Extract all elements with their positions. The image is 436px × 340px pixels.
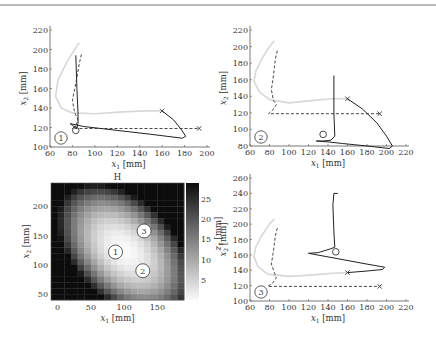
y-tick-label: 220 — [233, 205, 248, 214]
heatmap-cell — [104, 288, 111, 294]
heatmap-cell — [131, 183, 138, 189]
heatmap-cell — [118, 212, 125, 218]
heatmap-cell — [137, 206, 144, 212]
heatmap-cell — [144, 195, 151, 201]
x-tick-label: 200 — [379, 303, 394, 312]
heatmap-cell — [64, 206, 71, 212]
heatmap-cell — [171, 271, 178, 277]
heatmap-cell — [151, 189, 158, 195]
x-tick-label: 50 — [86, 303, 96, 312]
heatmap-cell — [137, 282, 144, 288]
x-marker-icon — [197, 126, 201, 130]
heatmap-cell — [118, 282, 125, 288]
heatmap-cell — [151, 242, 158, 248]
dashed-trajectory — [269, 51, 380, 114]
heatmap-cell — [91, 253, 98, 259]
heatmap-cell — [151, 183, 158, 189]
heatmap-cell — [137, 212, 144, 218]
heatmap-cell — [177, 265, 184, 271]
heatmap-cell — [164, 294, 171, 300]
heatmap-cell — [118, 189, 125, 195]
heatmap-cell — [118, 183, 125, 189]
light-trajectory — [56, 43, 163, 114]
heatmap-cell — [177, 242, 184, 248]
axis-label: x1 [mm] — [311, 158, 345, 169]
heatmap-cell — [104, 271, 111, 277]
solid-trajectory — [309, 193, 385, 272]
heatmap-cell — [84, 247, 91, 253]
heatmap-cell — [137, 247, 144, 253]
heatmap-cell — [58, 236, 65, 242]
heatmap-cell — [131, 288, 138, 294]
y-tick-label: 120 — [233, 109, 248, 118]
heatmap-cell — [71, 253, 78, 259]
heatmap-cell — [171, 265, 178, 271]
heatmap-cell — [98, 242, 105, 248]
heatmap-cell — [98, 277, 105, 283]
heatmap-cell — [151, 201, 158, 207]
heatmap-cell — [84, 183, 91, 189]
heatmap-cell — [104, 206, 111, 212]
heatmap-cell — [71, 265, 78, 271]
heatmap-cell — [131, 195, 138, 201]
colorbar-tick-label: 25 — [201, 195, 211, 204]
x-tick-label: 100 — [87, 149, 102, 158]
heatmap-cell — [104, 218, 111, 224]
heatmap-cell — [164, 201, 171, 207]
heatmap-cell — [91, 271, 98, 277]
heatmap-cell — [118, 218, 125, 224]
heatmap-cell — [177, 183, 184, 189]
heatmap-cell — [104, 282, 111, 288]
heatmap-cell — [64, 271, 71, 277]
heatmap-cell — [91, 224, 98, 230]
dashed-trajectory — [72, 54, 199, 128]
position-label: 2 — [140, 267, 145, 276]
heatmap-cell — [124, 218, 131, 224]
heatmap-cell — [51, 189, 58, 195]
heatmap-cell — [58, 230, 65, 236]
heatmap-cell — [111, 230, 118, 236]
x-tick-label: 150 — [150, 303, 165, 312]
heatmap-cell — [98, 201, 105, 207]
heatmap-cell — [171, 183, 178, 189]
heatmap-cell — [71, 288, 78, 294]
heatmap-cell — [164, 183, 171, 189]
heatmap-cell — [177, 206, 184, 212]
heatmap-cell — [157, 253, 164, 259]
heatmap-cell — [171, 282, 178, 288]
heatmap-cell — [91, 189, 98, 195]
colorbar-tick-label: 20 — [201, 215, 211, 224]
plot-number-label: 2 — [258, 133, 263, 142]
heatmap-cell — [98, 224, 105, 230]
heatmap-cell — [71, 277, 78, 283]
heatmap-cell — [78, 236, 85, 242]
heatmap-cell — [118, 224, 125, 230]
figure: 6080100120140160180200100120140160180200… — [0, 0, 436, 340]
heatmap-cell — [164, 265, 171, 271]
heatmap-cell — [131, 259, 138, 265]
heatmap-cell — [71, 224, 78, 230]
heatmap-cell — [171, 195, 178, 201]
dashed-trajectory — [268, 228, 380, 286]
heatmap-cell — [91, 288, 98, 294]
heatmap-cell — [91, 230, 98, 236]
heatmap-cell — [118, 288, 125, 294]
heatmap-cell — [78, 242, 85, 248]
heatmap-cell — [157, 242, 164, 248]
heatmap-cell — [104, 212, 111, 218]
heatmap-cell — [111, 201, 118, 207]
heatmap-cell — [71, 183, 78, 189]
heatmap-cell — [84, 201, 91, 207]
heatmap-cell — [91, 277, 98, 283]
heatmap-cell — [58, 265, 65, 271]
position-label: 3 — [142, 227, 147, 236]
heatmap-cell — [124, 282, 131, 288]
heatmap-cell — [177, 294, 184, 300]
heatmap-cell — [58, 195, 65, 201]
heatmap-cell — [78, 195, 85, 201]
heatmap-cell — [144, 201, 151, 207]
heatmap-cell — [171, 224, 178, 230]
heatmap-cell — [118, 259, 125, 265]
heatmap-cell — [118, 206, 125, 212]
heatmap-cell — [71, 189, 78, 195]
